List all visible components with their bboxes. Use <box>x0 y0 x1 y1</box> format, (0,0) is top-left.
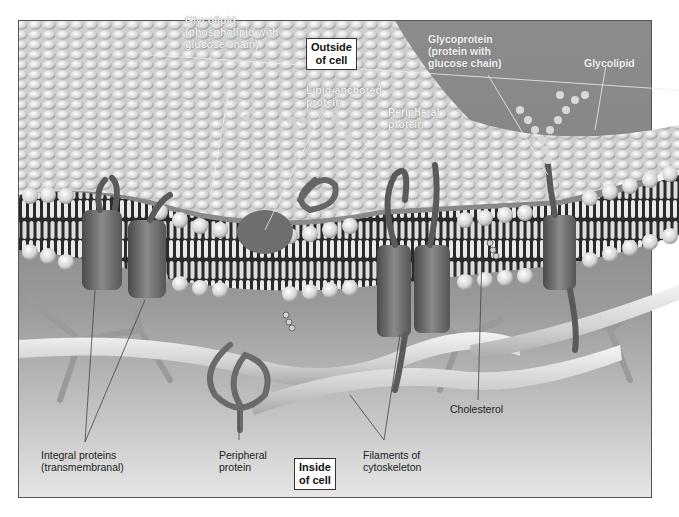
membrane-diagram: Glycolipid (phospholipid with glucose ch… <box>0 0 679 517</box>
lipid-anchored-protein <box>237 210 293 254</box>
label-filaments-of-cytoskeleton: Filaments of cytoskeleton <box>363 449 421 473</box>
cytoskeleton-filaments <box>19 285 679 415</box>
label-glycolipid-phospholipid: Glycolipid (phospholipid with glucose ch… <box>185 14 278 50</box>
label-lipid-anchored-protein: Lipid-anchored protein <box>306 84 382 108</box>
region-box-outside-of-cell: Outside of cell <box>306 38 357 70</box>
label-glycoprotein: Glycoprotein (protein with glucose chain… <box>428 33 502 69</box>
label-cholesterol: Cholesterol <box>450 403 503 415</box>
label-integral-proteins: Integral proteins (transmembranal) <box>41 449 124 473</box>
region-box-inside-of-cell: Inside of cell <box>294 458 336 490</box>
label-peripheral-protein-top: Peripheral protein <box>388 106 439 130</box>
membrane-illustration <box>0 0 679 517</box>
label-peripheral-protein-bottom: Peripheral protein <box>219 449 267 473</box>
label-glycolipid: Glycolipid <box>584 57 635 69</box>
